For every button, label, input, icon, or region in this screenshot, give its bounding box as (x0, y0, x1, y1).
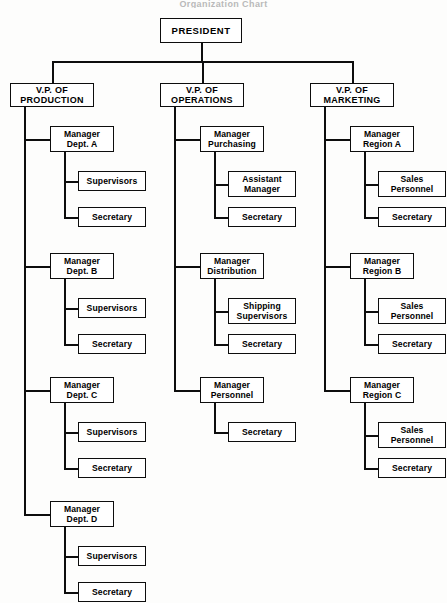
connector-spine-personnel (214, 403, 216, 432)
node-personnel-line2: Personnel (211, 390, 253, 401)
connector-vp-spine-operations (174, 107, 176, 390)
node-sales-personnel-b-line1: Sales (391, 301, 433, 312)
connector-president-drop (201, 43, 203, 61)
node-sales-personnel-a-line2: Personnel (391, 184, 433, 195)
node-secretary-personnel-line1: Secretary (242, 427, 282, 438)
node-secretary-region-b[interactable]: Secretary (378, 334, 446, 354)
node-sales-personnel-b[interactable]: SalesPersonnel (378, 298, 446, 324)
node-region-c-line2: Region C (363, 390, 402, 401)
connector-bus-to-vp-operations (202, 61, 204, 83)
node-vp-marketing[interactable]: V.P. OFMARKETING (310, 83, 394, 107)
node-supervisors-a[interactable]: Supervisors (78, 171, 146, 191)
connector-dept-b-to-secretary-b (64, 344, 78, 346)
connector-bus-to-vp-production (52, 61, 54, 83)
node-distribution[interactable]: ManagerDistribution (200, 253, 264, 279)
node-dept-c-line1: Manager (64, 380, 100, 391)
connector-spine-dept-d (64, 527, 66, 592)
node-secretary-personnel[interactable]: Secretary (228, 422, 296, 442)
node-sales-personnel-c[interactable]: SalesPersonnel (378, 422, 446, 448)
node-purchasing-line2: Purchasing (208, 139, 256, 150)
node-dept-a[interactable]: ManagerDept. A (50, 126, 114, 152)
node-secretary-b[interactable]: Secretary (78, 334, 146, 354)
connector-dept-d-to-supervisors-d (64, 556, 78, 558)
connector-vp-to-region-a (324, 139, 350, 141)
node-personnel[interactable]: ManagerPersonnel (200, 377, 264, 403)
node-supervisors-c-line1: Supervisors (87, 427, 138, 438)
node-secretary-distribution[interactable]: Secretary (228, 334, 296, 354)
node-secretary-c-line1: Secretary (92, 463, 132, 474)
connector-vp-to-purchasing (174, 139, 200, 141)
connector-bus-to-vp-marketing (352, 61, 354, 83)
connector-personnel-to-secretary-personnel (214, 432, 228, 434)
node-vp-production[interactable]: V.P. OFPRODUCTION (10, 83, 94, 107)
node-supervisors-d[interactable]: Supervisors (78, 546, 146, 566)
node-secretary-a-line1: Secretary (92, 212, 132, 223)
node-region-b-line2: Region B (363, 266, 402, 277)
node-dept-b[interactable]: ManagerDept. B (50, 253, 114, 279)
node-vp-production-line1: V.P. OF (20, 85, 84, 96)
connector-dept-c-to-supervisors-c (64, 432, 78, 434)
node-secretary-c[interactable]: Secretary (78, 458, 146, 478)
connector-vp-to-region-c (324, 390, 350, 392)
connector-purchasing-to-secretary-purchasing (214, 217, 228, 219)
node-sales-personnel-b-line2: Personnel (391, 311, 433, 322)
node-supervisors-a-line1: Supervisors (87, 176, 138, 187)
node-sales-personnel-c-line2: Personnel (391, 435, 433, 446)
node-dept-b-line1: Manager (64, 256, 100, 267)
connector-vp-spine-production (24, 107, 26, 514)
node-supervisors-b-line1: Supervisors (87, 303, 138, 314)
node-sales-personnel-a-line1: Sales (391, 174, 433, 185)
node-vp-marketing-line2: MARKETING (323, 95, 380, 106)
connector-region-a-to-sales-personnel-a (364, 184, 378, 186)
connector-region-b-to-sales-personnel-b (364, 311, 378, 313)
node-region-b[interactable]: ManagerRegion B (350, 253, 414, 279)
node-supervisors-c[interactable]: Supervisors (78, 422, 146, 442)
node-personnel-line1: Manager (211, 380, 253, 391)
node-dept-b-line2: Dept. B (64, 266, 100, 277)
node-vp-operations[interactable]: V.P. OFOPERATIONS (160, 83, 244, 107)
node-region-a[interactable]: ManagerRegion A (350, 126, 414, 152)
node-region-a-line1: Manager (363, 129, 401, 140)
node-secretary-region-c-line1: Secretary (392, 463, 432, 474)
node-secretary-region-a[interactable]: Secretary (378, 207, 446, 227)
connector-region-c-to-sales-personnel-c (364, 435, 378, 437)
node-distribution-line1: Manager (207, 256, 256, 267)
connector-dept-b-to-supervisors-b (64, 308, 78, 310)
node-supervisors-b[interactable]: Supervisors (78, 298, 146, 318)
node-sales-personnel-c-line1: Sales (391, 425, 433, 436)
node-secretary-d[interactable]: Secretary (78, 582, 146, 602)
node-dept-d-line1: Manager (64, 504, 100, 515)
node-dept-d[interactable]: ManagerDept. D (50, 501, 114, 527)
node-secretary-purchasing[interactable]: Secretary (228, 207, 296, 227)
connector-dept-c-to-secretary-c (64, 468, 78, 470)
org-chart-canvas: Organization Chart PRESIDENTV.P. OFPRODU… (0, 0, 447, 603)
node-region-a-line2: Region A (363, 139, 401, 150)
node-sales-personnel-a[interactable]: SalesPersonnel (378, 171, 446, 197)
connector-vp-to-region-b (324, 266, 350, 268)
node-secretary-a[interactable]: Secretary (78, 207, 146, 227)
node-secretary-distribution-line1: Secretary (242, 339, 282, 350)
node-secretary-region-c[interactable]: Secretary (378, 458, 446, 478)
node-dept-d-line2: Dept. D (64, 514, 100, 525)
node-secretary-region-a-line1: Secretary (392, 212, 432, 223)
node-vp-operations-line2: OPERATIONS (171, 95, 233, 106)
node-supervisors-d-line1: Supervisors (87, 551, 138, 562)
connector-dept-a-to-secretary-a (64, 217, 78, 219)
connector-region-b-to-secretary-region-b (364, 344, 378, 346)
connector-region-c-to-secretary-region-c (364, 468, 378, 470)
connector-purchasing-to-assistant-manager (214, 184, 228, 186)
node-dept-a-line2: Dept. A (64, 139, 100, 150)
connector-vp-to-dept-d (24, 514, 50, 516)
node-secretary-b-line1: Secretary (92, 339, 132, 350)
node-shipping-supervisors[interactable]: ShippingSupervisors (228, 298, 296, 324)
node-dept-c[interactable]: ManagerDept. C (50, 377, 114, 403)
node-region-c[interactable]: ManagerRegion C (350, 377, 414, 403)
node-purchasing[interactable]: ManagerPurchasing (200, 126, 264, 152)
node-dept-c-line2: Dept. C (64, 390, 100, 401)
node-region-b-line1: Manager (363, 256, 402, 267)
node-vp-production-line2: PRODUCTION (20, 95, 84, 106)
node-president[interactable]: PRESIDENT (160, 18, 242, 43)
connector-distribution-to-secretary-distribution (214, 344, 228, 346)
connector-region-a-to-secretary-region-a (364, 217, 378, 219)
node-assistant-manager[interactable]: AssistantManager (228, 171, 296, 197)
